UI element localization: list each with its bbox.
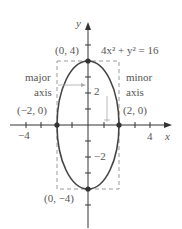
point-right <box>116 122 121 127</box>
major-axis-pointer-arrow-icon <box>81 83 86 87</box>
major-axis-label-line2: axis <box>34 87 52 98</box>
point-left-label: (−2, 0) <box>17 105 47 116</box>
x-tick-label-4: 4 <box>147 131 153 142</box>
point-bottom-label: (0, −4) <box>44 193 74 204</box>
point-right-label: (2, 0) <box>123 105 147 116</box>
y-tick-label-2: 2 <box>94 86 100 97</box>
point-top <box>85 58 90 63</box>
minor-axis-label-line1: minor <box>126 72 152 83</box>
equation-label: 4x² + y² = 16 <box>101 45 159 56</box>
major-axis-label-line1: major <box>25 72 51 83</box>
x-axis-arrow-icon <box>164 122 172 128</box>
point-bottom <box>85 186 90 191</box>
y-tick-label-neg2: −2 <box>94 151 106 162</box>
x-axis-label: x <box>165 131 170 142</box>
point-top-label: (0, 4) <box>55 45 79 56</box>
minor-axis-label-line2: axis <box>126 87 144 98</box>
ellipse-diagram: y x (0, 4) 4x² + y² = 16 major axis mino… <box>0 0 182 229</box>
x-tick-label-neg4: −4 <box>18 130 30 141</box>
point-left <box>54 122 59 127</box>
y-axis-label: y <box>76 18 81 29</box>
y-axis-arrow-icon <box>85 22 91 30</box>
